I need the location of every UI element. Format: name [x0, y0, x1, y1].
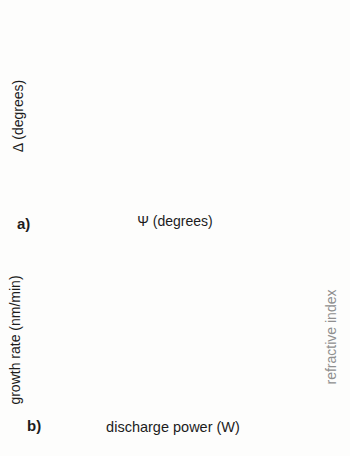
panel-a-xaxis-label: Ψ (degrees) [95, 213, 255, 229]
figure-page: a) Ψ (degrees) Δ (degrees) b) discharge … [0, 0, 350, 456]
panel-b-xaxis-label: discharge power (W) [93, 419, 253, 435]
panel-b-left-yaxis-label: growth rate (nm/min) [7, 275, 23, 404]
panel-b-right-yaxis-label: refractive index [323, 290, 339, 385]
panel-a-yaxis-label: Δ (degrees) [10, 80, 26, 152]
panel-b-tag: b) [27, 417, 41, 434]
panel-a-tag: a) [17, 215, 30, 232]
